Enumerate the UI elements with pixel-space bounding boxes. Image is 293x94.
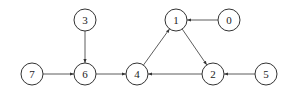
node-label: 0	[226, 14, 232, 26]
node-label: 3	[82, 14, 88, 26]
node-0: 0	[218, 9, 240, 31]
node-7: 7	[21, 63, 43, 85]
node-label: 5	[263, 68, 269, 80]
edge-1-to-2	[182, 29, 207, 65]
node-2: 2	[202, 63, 224, 85]
node-3: 3	[74, 9, 96, 31]
node-label: 4	[134, 68, 140, 80]
node-1: 1	[165, 9, 187, 31]
graph-canvas: 01234567	[0, 0, 293, 94]
node-label: 7	[29, 68, 35, 80]
directed-graph: 01234567	[0, 0, 293, 94]
node-4: 4	[126, 63, 148, 85]
node-label: 2	[210, 68, 216, 80]
node-6: 6	[74, 63, 96, 85]
edge-4-to-1	[143, 29, 169, 65]
node-label: 6	[82, 68, 88, 80]
node-label: 1	[173, 14, 179, 26]
node-5: 5	[255, 63, 277, 85]
